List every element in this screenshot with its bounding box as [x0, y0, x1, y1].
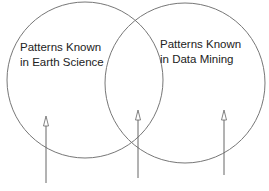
arrow-intersection	[136, 110, 141, 178]
earth-science-label-line2: in Earth Science	[20, 55, 104, 70]
data-mining-label: Patterns Known in Data Mining	[160, 37, 241, 67]
bottom-label-left: ...	[22, 184, 30, 191]
venn-diagram: Patterns Known in Earth Science Patterns…	[0, 0, 269, 191]
arrow-earth-science	[44, 116, 49, 183]
earth-science-circle	[7, 2, 163, 158]
earth-science-label: Patterns Known in Earth Science	[20, 40, 104, 70]
data-mining-label-line2: in Data Mining	[160, 52, 241, 67]
bottom-label-right: ...	[215, 184, 223, 191]
arrow-data-mining	[222, 110, 227, 175]
earth-science-label-line1: Patterns Known	[20, 40, 104, 55]
data-mining-label-line1: Patterns Known	[160, 37, 241, 52]
venn-graphics	[0, 0, 269, 191]
data-mining-circle	[105, 3, 265, 163]
